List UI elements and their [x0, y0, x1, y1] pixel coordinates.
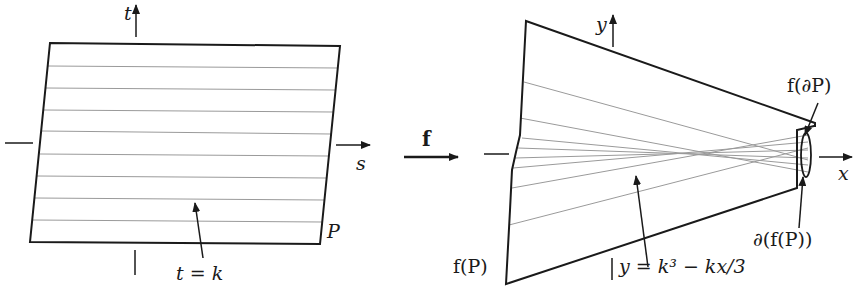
t-equals-k-label: t = k — [176, 262, 223, 284]
image-lines — [509, 82, 808, 225]
diagram-canvas: t s P t = k f — [0, 0, 853, 297]
region-p — [30, 43, 340, 244]
t-equals-k-pointer — [195, 203, 203, 258]
boundary-of-image-label: ∂(f(P)) — [753, 228, 812, 250]
image-of-boundary-label: f(∂P) — [787, 74, 831, 96]
level-lines — [33, 66, 338, 222]
left-panel: t s P t = k — [5, 2, 370, 284]
map-f-label: f — [422, 127, 432, 151]
s-axis-label: s — [356, 152, 366, 174]
x-axis-label: x — [838, 162, 849, 184]
right-panel: y x f(P) f(∂P) ∂(f(P)) y = k³ − kx/3 — [453, 13, 852, 284]
t-axis-label: t — [124, 2, 132, 24]
image-label: f(P) — [453, 255, 488, 277]
fold-ellipse — [801, 133, 811, 177]
f-boundary-p-pointer — [805, 103, 818, 135]
boundary-f-p-pointer — [799, 177, 803, 228]
y-axis-label: y — [595, 13, 607, 35]
curve-label: y = k³ − kx/3 — [618, 255, 746, 277]
region-p-label: P — [326, 220, 341, 242]
map-f: f — [404, 127, 458, 157]
